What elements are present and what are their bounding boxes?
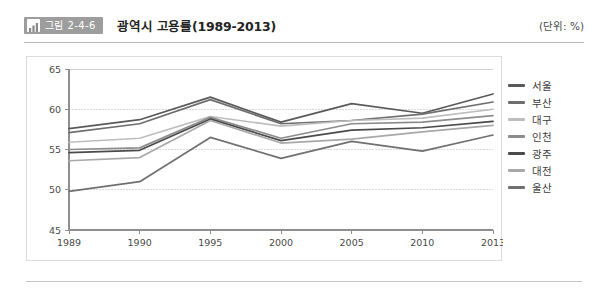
x-tick-label: 2005	[340, 237, 364, 248]
y-tick-label: 50	[49, 184, 61, 195]
header-divider	[24, 42, 584, 43]
x-tick-label: 1995	[198, 237, 222, 248]
legend-item-label: 인천	[532, 129, 552, 144]
figure-badge: 그림 2-4-6	[24, 17, 103, 34]
y-tick-label: 45	[49, 225, 61, 236]
figure-title: 광역시 고용률(1989-2013)	[117, 16, 276, 35]
legend-item[interactable]: 인천	[508, 129, 600, 144]
legend-color-swatch	[508, 186, 525, 189]
x-tick-label: 2010	[410, 237, 434, 248]
figure-unit-label: (단위: %)	[539, 18, 584, 33]
bar-chart-icon	[27, 19, 40, 32]
y-tick-label: 65	[49, 64, 61, 75]
legend-color-swatch	[508, 101, 525, 104]
figure-badge-label: 그림 2-4-6	[45, 19, 96, 32]
legend-color-swatch	[508, 152, 525, 155]
gridlines	[69, 69, 493, 190]
x-axis-tick-labels: 1989199019952000200520102013	[57, 237, 503, 248]
legend-item-label: 대구	[532, 112, 552, 127]
legend-item-label: 부산	[532, 95, 552, 110]
series-lines	[69, 94, 493, 191]
legend-item[interactable]: 부산	[508, 95, 600, 110]
legend-item[interactable]: 대전	[508, 163, 600, 178]
legend-color-swatch	[508, 84, 525, 87]
legend-item-label: 울산	[532, 180, 552, 195]
y-tick-label: 55	[49, 144, 61, 155]
y-tick-label: 60	[49, 104, 61, 115]
chart-panel: 4550556065 1989199019952000200520102013	[26, 56, 502, 261]
series-line	[69, 109, 493, 142]
legend-item-label: 광주	[532, 146, 552, 161]
figure-header: 그림 2-4-6 광역시 고용률(1989-2013) (단위: %)	[24, 17, 584, 39]
legend-color-swatch	[508, 169, 525, 172]
x-tick-label: 2013	[481, 237, 503, 248]
legend-color-swatch	[508, 135, 525, 138]
line-chart: 4550556065 1989199019952000200520102013	[27, 57, 503, 262]
legend-item[interactable]: 서울	[508, 78, 600, 93]
footer-divider	[26, 281, 582, 282]
x-tick-label: 1989	[57, 237, 81, 248]
legend-item-label: 서울	[532, 78, 552, 93]
legend-item[interactable]: 대구	[508, 112, 600, 127]
chart-legend: 서울부산대구인천광주대전울산	[508, 78, 600, 197]
y-axis-tick-labels: 4550556065	[49, 64, 61, 236]
legend-item[interactable]: 광주	[508, 146, 600, 161]
legend-item[interactable]: 울산	[508, 180, 600, 195]
x-tick-label: 1990	[128, 237, 152, 248]
legend-item-label: 대전	[532, 163, 552, 178]
x-tick-label: 2000	[269, 237, 293, 248]
legend-color-swatch	[508, 118, 525, 121]
